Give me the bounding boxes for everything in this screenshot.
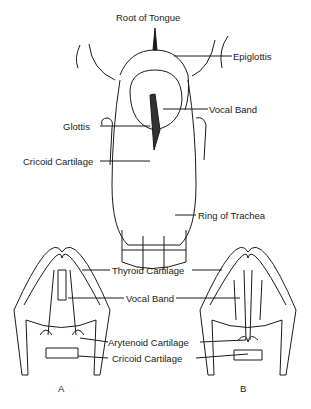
- larynx-panel-b: [200, 247, 296, 375]
- panel-label-b: B: [240, 383, 246, 394]
- leader-lines-top: [100, 56, 232, 215]
- larynx-panel-a: [14, 247, 110, 375]
- label-thyroid-cartilage: Thyroid Cartilage: [112, 265, 184, 276]
- label-vocal-band-bottom: Vocal Band: [126, 293, 174, 304]
- larynx-top-view: [76, 28, 228, 270]
- label-glottis: Glottis: [63, 121, 90, 132]
- label-ring-of-trachea: Ring of Trachea: [198, 210, 265, 221]
- panel-label-a: A: [58, 383, 64, 394]
- label-cricoid-cartilage-bottom: Cricoid Cartilage: [112, 353, 182, 364]
- label-root-of-tongue: Root of Tongue: [116, 12, 180, 23]
- label-cricoid-cartilage-top: Cricoid Cartilage: [23, 156, 93, 167]
- label-vocal-band-top: Vocal Band: [209, 104, 257, 115]
- label-arytenoid-cartilage: Arytenoid Cartilage: [108, 337, 189, 348]
- label-epiglottis: Epiglottis: [233, 51, 272, 62]
